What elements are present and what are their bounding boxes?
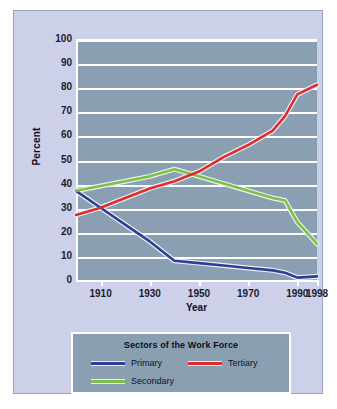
y-axis-title: Percent (31, 117, 42, 177)
y-axis-tick-label: 70 (26, 106, 72, 116)
legend-entry: Tertiary (188, 358, 258, 368)
y-axis-tick-label: 30 (26, 203, 72, 213)
y-axis-tick-label: 0 (26, 275, 72, 285)
y-axis-tick-label: 10 (26, 251, 72, 261)
legend-entry: Primary (91, 358, 162, 368)
x-axis-tick-label: 1910 (89, 288, 111, 299)
x-axis-tick-label: 1970 (237, 288, 259, 299)
y-axis-tick-label: 100 (26, 34, 72, 44)
x-axis-tick (150, 280, 152, 286)
chart-figure: 0102030405060708090100 Percent 191019301… (0, 0, 337, 409)
y-axis-tick-labels: 0102030405060708090100 (22, 39, 72, 280)
legend-swatch-icon (91, 361, 125, 366)
x-axis-tick (199, 280, 201, 286)
x-axis-tick (248, 280, 250, 286)
chart-panel: 0102030405060708090100 Percent 191019301… (13, 10, 323, 394)
y-axis-tick-label: 80 (26, 82, 72, 92)
series-halo-secondary (76, 169, 317, 244)
series-halo-tertiary (76, 85, 317, 215)
x-axis-title: Year (76, 302, 317, 313)
x-axis-tick (317, 280, 319, 286)
x-axis-tick (297, 280, 299, 286)
x-axis-tick (101, 280, 103, 286)
series-line-tertiary (76, 85, 317, 215)
legend-swatch-icon (91, 379, 125, 384)
legend-label: Primary (131, 358, 162, 368)
legend-title: Sectors of the Work Force (73, 340, 289, 350)
legend-entry: Secondary (91, 376, 174, 386)
x-axis-line (76, 280, 319, 282)
series-line-secondary (76, 169, 317, 244)
y-axis-tick-label: 20 (26, 227, 72, 237)
legend-label: Tertiary (228, 358, 258, 368)
plot-area-wrapper (76, 39, 317, 280)
x-axis-tick-label: 1998 (306, 288, 328, 299)
series-layer (76, 39, 317, 280)
y-axis-tick-label: 90 (26, 58, 72, 68)
y-axis-tick-label: 40 (26, 179, 72, 189)
x-axis-tick-label: 1930 (139, 288, 161, 299)
x-axis-tick-label: 1950 (188, 288, 210, 299)
legend-swatch-icon (188, 361, 222, 366)
chart-legend: Sectors of the Work Force PrimaryTertiar… (71, 332, 291, 394)
legend-label: Secondary (131, 376, 174, 386)
